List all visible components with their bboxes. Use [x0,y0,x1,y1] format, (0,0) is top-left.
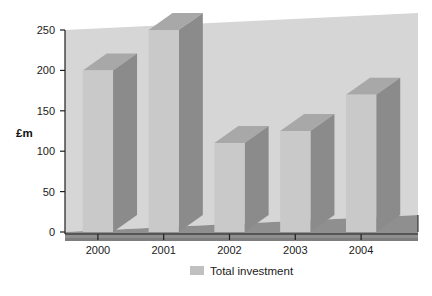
y-axis-tick-label: 0 [49,226,55,238]
bar-side-face [179,13,203,232]
legend-color-swatch [190,266,204,275]
x-axis-tick-label: 2004 [349,244,373,256]
bar-2002 [214,126,268,232]
bar-front-face [83,70,113,232]
y-axis-title: £m [16,127,33,139]
bar-front-face [346,95,376,232]
bar-2000 [83,53,137,232]
bar-front-face [214,143,244,232]
y-axis-tick-label: 150 [37,105,55,117]
y-axis-tick-label: 100 [37,145,55,157]
x-axis-tick-label: 2000 [86,244,110,256]
x-axis-tick-label: 2001 [151,244,175,256]
bar-2003 [280,114,334,232]
x-axis-tick-label: 2002 [217,244,241,256]
x-axis-tick-label: 2003 [283,244,307,256]
bar-front-face [280,131,310,232]
bar-chart-figure: 050100150200250 20002001200220032004 £m … [0,0,432,296]
chart-floor-front-edge [65,238,418,241]
bar-side-face [310,114,334,232]
chart-legend: Total investment [190,265,294,277]
bar-side-face [245,126,269,232]
y-axis-tick-label: 250 [37,24,55,36]
y-axis-tick-label: 200 [37,64,55,76]
bar-front-face [149,30,179,232]
legend-label: Total investment [210,265,294,277]
bar-side-face [376,78,400,232]
bar-2001 [149,13,203,232]
bar-side-face [113,53,137,232]
chart-canvas: 050100150200250 20002001200220032004 £m … [0,0,432,296]
y-axis-tick-label: 50 [43,186,55,198]
y-axis-ticks: 050100150200250 [37,24,65,238]
bar-2004 [346,78,400,232]
